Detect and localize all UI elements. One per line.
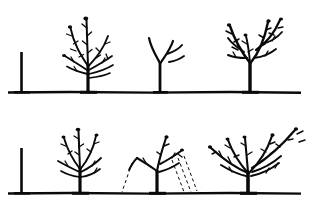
limb-left-arm bbox=[137, 158, 157, 171]
bottom-row bbox=[8, 127, 305, 193]
bud-twig bbox=[87, 149, 91, 152]
bud-twig bbox=[288, 139, 293, 140]
terminal-bud bbox=[180, 148, 184, 151]
bud-twig bbox=[278, 27, 283, 28]
bottom-stage-mature-spreading-tree bbox=[208, 127, 305, 193]
bud-twig bbox=[178, 154, 182, 157]
bud-twig bbox=[96, 48, 100, 52]
terminal-bud bbox=[244, 33, 248, 36]
bud-twig bbox=[71, 49, 77, 51]
terminal-bud bbox=[62, 54, 66, 57]
bottom-stage-tree-with-pruning-guides bbox=[122, 135, 197, 193]
limb-right-low bbox=[169, 56, 184, 62]
bud-twig bbox=[299, 140, 305, 142]
bud-twig bbox=[297, 131, 303, 134]
top-stage-pruned-framework bbox=[149, 38, 184, 92]
limb-left bbox=[149, 38, 160, 63]
limb-left-low bbox=[61, 171, 80, 177]
pruning-guide-line-right-mid bbox=[178, 158, 191, 192]
terminal-bud bbox=[208, 145, 212, 148]
terminal-bud bbox=[243, 135, 247, 138]
limb-left-arm-tip bbox=[129, 158, 137, 170]
terminal-bud bbox=[270, 133, 274, 136]
bud-twig bbox=[106, 54, 108, 59]
bottom-stage-whip bbox=[14, 148, 30, 193]
central-leader bbox=[157, 138, 166, 171]
bud-twig bbox=[247, 152, 252, 155]
illustration-canvas bbox=[0, 0, 309, 212]
terminal-bud bbox=[76, 128, 81, 132]
pruning-guide-line-right-outer bbox=[184, 156, 197, 191]
terminal-bud bbox=[266, 19, 270, 22]
pruning-guide-line-right-inner bbox=[172, 160, 184, 192]
tree-training-figure: Fruit tree training and pruning stages bbox=[0, 0, 309, 212]
terminal-bud bbox=[226, 137, 230, 140]
terminal-bud bbox=[62, 135, 66, 138]
top-stage-whip bbox=[14, 52, 30, 92]
central-leader bbox=[79, 131, 81, 169]
top-stage-developed-tree bbox=[226, 17, 283, 92]
top-row bbox=[8, 17, 301, 93]
bud-twig bbox=[212, 152, 216, 154]
terminal-bud bbox=[95, 133, 99, 136]
limb-right-arm bbox=[160, 151, 181, 164]
terminal-bud bbox=[227, 23, 231, 26]
top-stage-young-branched-tree bbox=[62, 17, 113, 93]
terminal-bud bbox=[164, 135, 168, 138]
bottom-stage-young-branched-tree bbox=[58, 128, 101, 194]
terminal-bud bbox=[294, 127, 298, 130]
central-leader bbox=[87, 20, 89, 66]
limb-right-low bbox=[159, 163, 179, 172]
bud-twig bbox=[61, 144, 66, 146]
terminal-bud bbox=[68, 25, 72, 28]
terminal-bud bbox=[279, 17, 283, 20]
terminal-bud bbox=[83, 17, 88, 21]
